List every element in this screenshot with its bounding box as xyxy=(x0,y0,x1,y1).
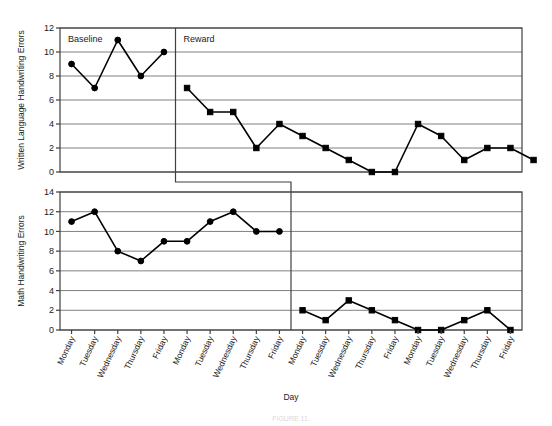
series-line-reward xyxy=(187,88,534,172)
x-tick-label: Thursday xyxy=(353,334,377,371)
data-point xyxy=(531,157,536,162)
data-point xyxy=(161,49,167,55)
phase-divider-connector xyxy=(176,172,292,192)
x-tick-label: Tuesday xyxy=(308,334,331,368)
data-point xyxy=(92,85,98,91)
data-point xyxy=(300,308,305,313)
y-tick-label: 6 xyxy=(49,95,54,105)
figure-container: 024681012Written Language Handwriting Er… xyxy=(0,0,552,426)
y-tick-label: 0 xyxy=(49,167,54,177)
data-point xyxy=(115,37,121,43)
data-point xyxy=(392,317,397,322)
y-tick-label: 4 xyxy=(49,286,54,296)
data-point xyxy=(277,121,282,126)
x-tick-label: Tuesday xyxy=(424,334,447,368)
data-point xyxy=(369,169,374,174)
data-point xyxy=(138,73,144,79)
data-point xyxy=(323,317,328,322)
series-line-baseline xyxy=(72,212,280,261)
y-axis-title: Math Handwriting Errors xyxy=(16,215,26,307)
data-point xyxy=(138,258,144,264)
data-point xyxy=(346,298,351,303)
x-tick-label: Monday xyxy=(402,334,424,366)
x-axis-title: Day xyxy=(283,392,299,402)
data-point xyxy=(69,61,75,67)
data-point xyxy=(438,133,443,138)
data-point xyxy=(462,157,467,162)
y-tick-label: 8 xyxy=(49,71,54,81)
panel-math: 02468101214Math Handwriting Errors xyxy=(16,187,522,335)
data-point xyxy=(277,229,283,235)
phase-label-reward: Reward xyxy=(184,34,215,44)
figure-caption: FIGURE 11. xyxy=(272,415,310,422)
y-tick-label: 12 xyxy=(44,23,54,33)
data-point xyxy=(231,109,236,114)
data-point xyxy=(184,238,190,244)
x-tick-label: Friday xyxy=(266,334,285,360)
y-tick-label: 8 xyxy=(49,246,54,256)
x-tick-label: Monday xyxy=(55,334,77,366)
y-tick-label: 2 xyxy=(49,305,54,315)
x-axis: MondayTuesdayWednesdayThursdayFridayMond… xyxy=(55,330,516,379)
data-point xyxy=(115,248,121,254)
y-tick-label: 2 xyxy=(49,143,54,153)
data-point xyxy=(415,121,420,126)
x-tick-label: Friday xyxy=(150,334,169,360)
data-point xyxy=(392,169,397,174)
y-tick-label: 4 xyxy=(49,119,54,129)
data-point xyxy=(369,308,374,313)
data-point xyxy=(254,145,259,150)
data-point xyxy=(253,229,259,235)
data-point xyxy=(462,317,467,322)
data-point xyxy=(508,145,513,150)
y-tick-label: 14 xyxy=(44,187,54,197)
data-point xyxy=(323,145,328,150)
y-tick-label: 10 xyxy=(44,47,54,57)
data-point xyxy=(69,219,75,225)
x-tick-label: Thursday xyxy=(469,334,493,371)
x-tick-label: Wednesday xyxy=(95,334,123,379)
data-point xyxy=(207,109,212,114)
y-tick-label: 6 xyxy=(49,266,54,276)
data-point xyxy=(207,219,213,225)
data-point xyxy=(485,308,490,313)
y-tick-label: 0 xyxy=(49,325,54,335)
x-tick-label: Friday xyxy=(497,334,516,360)
data-point xyxy=(300,133,305,138)
y-tick-label: 10 xyxy=(44,227,54,237)
x-tick-label: Wednesday xyxy=(211,334,239,379)
data-point xyxy=(485,145,490,150)
x-tick-label: Tuesday xyxy=(77,334,100,368)
series-line-baseline xyxy=(72,40,164,88)
series-line-reward xyxy=(303,300,511,330)
x-tick-label: Tuesday xyxy=(193,334,216,368)
x-tick-label: Wednesday xyxy=(326,334,354,379)
x-tick-label: Thursday xyxy=(122,334,146,371)
y-axis-title: Written Language Handwriting Errors xyxy=(16,30,26,170)
y-tick-label: 12 xyxy=(44,207,54,217)
x-tick-label: Monday xyxy=(171,334,193,366)
x-tick-label: Friday xyxy=(381,334,400,360)
panel-written-language: 024681012Written Language Handwriting Er… xyxy=(16,23,536,177)
multi-panel-line-chart: 024681012Written Language Handwriting Er… xyxy=(0,0,552,426)
phase-label-baseline: Baseline xyxy=(68,34,103,44)
x-tick-label: Thursday xyxy=(238,334,262,371)
data-point xyxy=(184,85,189,90)
data-point xyxy=(230,209,236,215)
data-point xyxy=(161,238,167,244)
x-tick-label: Wednesday xyxy=(442,334,470,379)
data-point xyxy=(92,209,98,215)
x-tick-label: Monday xyxy=(286,334,308,366)
data-point xyxy=(346,157,351,162)
